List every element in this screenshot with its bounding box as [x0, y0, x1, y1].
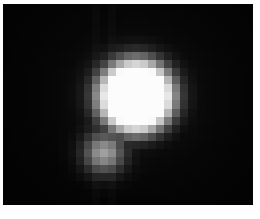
pixel-cell: [116, 92, 124, 100]
pixel-cell: [59, 165, 67, 173]
pixel-cell: [27, 100, 35, 108]
pixel-cell: [43, 44, 51, 52]
pixel-cell: [172, 197, 180, 205]
pixel-cell: [213, 4, 221, 12]
pixel-cell: [100, 149, 108, 157]
pixel-cell: [229, 92, 237, 100]
pixel-cell: [237, 109, 245, 117]
pixel-cell: [197, 4, 205, 12]
pixel-cell: [43, 189, 51, 197]
pixel-cell: [116, 181, 124, 189]
pixel-cell: [3, 12, 11, 20]
pixel-cell: [124, 189, 132, 197]
pixel-cell: [140, 117, 148, 125]
pixel-cell: [172, 109, 180, 117]
pixel-cell: [188, 68, 196, 76]
pixel-cell: [76, 141, 84, 149]
pixel-cell: [3, 181, 11, 189]
pixel-cell: [11, 92, 19, 100]
pixel-cell: [245, 20, 253, 28]
pixel-cell: [116, 60, 124, 68]
pixel-cell: [221, 68, 229, 76]
pixel-cell: [19, 4, 27, 12]
pixel-cell: [84, 157, 92, 165]
pixel-cell: [124, 117, 132, 125]
pixel-cell: [108, 12, 116, 20]
pixel-cell: [213, 165, 221, 173]
pixel-cell: [148, 44, 156, 52]
pixel-cell: [221, 84, 229, 92]
pixel-cell: [132, 157, 140, 165]
pixel-cell: [132, 173, 140, 181]
pixel-cell: [124, 12, 132, 20]
pixel-cell: [188, 133, 196, 141]
pixel-cell: [68, 149, 76, 157]
pixel-cell: [188, 20, 196, 28]
pixel-cell: [43, 4, 51, 12]
pixel-cell: [132, 84, 140, 92]
pixel-cell: [43, 173, 51, 181]
pixel-cell: [221, 181, 229, 189]
pixel-cell: [35, 28, 43, 36]
pixel-cell: [140, 109, 148, 117]
pixel-cell: [237, 12, 245, 20]
pixel-cell: [108, 100, 116, 108]
pixel-cell: [59, 173, 67, 181]
pixel-cell: [188, 165, 196, 173]
pixel-cell: [245, 109, 253, 117]
pixel-cell: [19, 60, 27, 68]
pixel-cell: [213, 149, 221, 157]
pixel-cell: [156, 44, 164, 52]
pixel-cell: [229, 28, 237, 36]
pixel-cell: [108, 60, 116, 68]
pixel-cell: [116, 149, 124, 157]
pixel-cell: [164, 12, 172, 20]
pixel-cell: [59, 125, 67, 133]
pixel-cell: [68, 181, 76, 189]
pixel-cell: [3, 117, 11, 125]
pixel-cell: [205, 12, 213, 20]
pixel-cell: [221, 189, 229, 197]
pixel-cell: [116, 76, 124, 84]
pixel-cell: [213, 117, 221, 125]
pixel-cell: [132, 60, 140, 68]
pixel-cell: [27, 4, 35, 12]
pixel-cell: [188, 125, 196, 133]
pixel-cell: [84, 28, 92, 36]
pixel-cell: [229, 165, 237, 173]
pixel-cell: [84, 4, 92, 12]
pixel-cell: [156, 60, 164, 68]
pixel-cell: [3, 141, 11, 149]
pixel-cell: [156, 84, 164, 92]
pixel-cell: [205, 76, 213, 84]
pixel-grid: [3, 4, 253, 205]
pixel-cell: [108, 44, 116, 52]
pixel-cell: [11, 52, 19, 60]
pixel-cell: [205, 141, 213, 149]
pixel-cell: [92, 84, 100, 92]
pixel-cell: [197, 149, 205, 157]
pixel-cell: [172, 84, 180, 92]
pixel-cell: [132, 189, 140, 197]
pixel-cell: [43, 197, 51, 205]
pixel-cell: [68, 125, 76, 133]
pixel-cell: [124, 109, 132, 117]
pixel-cell: [92, 76, 100, 84]
pixel-cell: [221, 141, 229, 149]
pixel-cell: [11, 141, 19, 149]
pixel-cell: [3, 109, 11, 117]
pixel-cell: [51, 76, 59, 84]
pixel-cell: [229, 141, 237, 149]
pixel-cell: [3, 60, 11, 68]
pixel-cell: [59, 109, 67, 117]
pixel-cell: [108, 28, 116, 36]
pixel-cell: [35, 149, 43, 157]
pixel-cell: [221, 100, 229, 108]
pixel-cell: [11, 125, 19, 133]
pixel-cell: [27, 52, 35, 60]
pixel-cell: [116, 141, 124, 149]
pixel-cell: [11, 20, 19, 28]
pixel-cell: [19, 36, 27, 44]
pixel-cell: [197, 197, 205, 205]
pixel-cell: [140, 165, 148, 173]
